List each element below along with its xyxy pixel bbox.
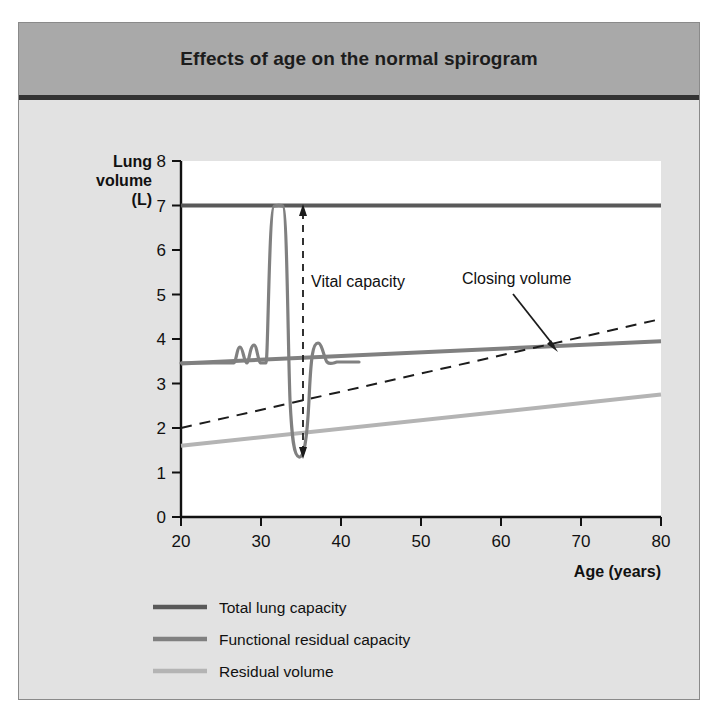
closing-volume-label: Closing volume	[462, 270, 571, 287]
x-axis-ticks	[181, 517, 661, 526]
chart-area: 0 1 2 3 4 5 6 7 8 Lung volume (L) 2	[19, 100, 701, 701]
y-tick-label-0: 0	[157, 508, 166, 527]
plot-background	[181, 161, 661, 517]
y-tick-label-8: 8	[157, 152, 166, 171]
legend-label-functional-residual-capacity: Functional residual capacity	[219, 631, 411, 648]
x-tick-label-80: 80	[652, 532, 671, 551]
title-band: Effects of age on the normal spirogram	[19, 23, 699, 95]
y-tick-label-2: 2	[157, 419, 166, 438]
spirogram-chart: 0 1 2 3 4 5 6 7 8 Lung volume (L) 2	[19, 100, 701, 701]
y-tick-label-7: 7	[157, 197, 166, 216]
x-tick-label-40: 40	[332, 532, 351, 551]
x-tick-label-30: 30	[252, 532, 271, 551]
x-tick-label-20: 20	[172, 532, 191, 551]
vital-capacity-label: Vital capacity	[311, 273, 405, 290]
y-tick-label-3: 3	[157, 375, 166, 394]
y-axis-title-line1: Lung	[113, 153, 152, 170]
y-axis-title-line2: volume	[96, 172, 152, 189]
legend-label-residual-volume: Residual volume	[219, 663, 334, 680]
legend: Total lung capacity Functional residual …	[153, 599, 411, 680]
page-title: Effects of age on the normal spirogram	[180, 48, 537, 70]
figure-panel: Effects of age on the normal spirogram	[18, 22, 700, 700]
y-tick-label-1: 1	[157, 464, 166, 483]
x-tick-label-50: 50	[412, 532, 431, 551]
y-tick-label-4: 4	[157, 330, 166, 349]
x-tick-label-60: 60	[492, 532, 511, 551]
y-axis-ticks	[172, 161, 181, 517]
x-axis-title: Age (years)	[574, 563, 661, 580]
legend-label-total-lung-capacity: Total lung capacity	[219, 599, 347, 616]
y-tick-label-6: 6	[157, 241, 166, 260]
y-tick-label-5: 5	[157, 286, 166, 305]
y-axis-title-line3: (L)	[132, 191, 152, 208]
x-tick-label-70: 70	[572, 532, 591, 551]
